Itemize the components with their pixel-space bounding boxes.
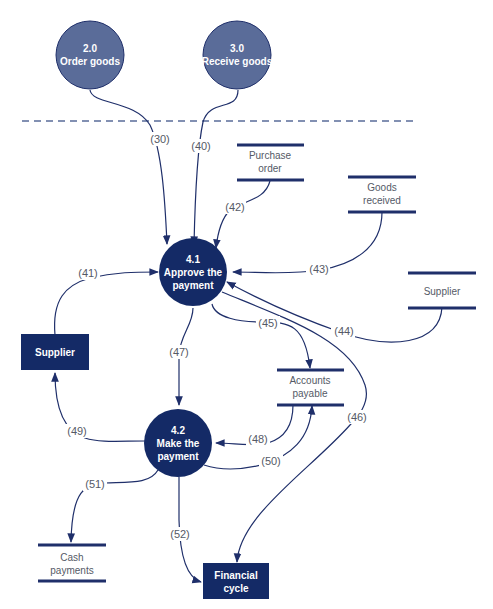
flow-label-44: (44) <box>334 325 354 337</box>
svg-text:Receive goods: Receive goods <box>202 56 273 67</box>
svg-text:payable: payable <box>292 388 327 399</box>
data-flow-diagram: (30) (40) (41) (42) (43) (44) (45) (46) … <box>0 0 493 609</box>
svg-text:Supplier: Supplier <box>424 286 461 297</box>
flow-label-47: (47) <box>169 346 189 358</box>
flow-41 <box>55 272 158 335</box>
flow-label-49: (49) <box>67 425 87 437</box>
svg-text:payment: payment <box>172 280 214 291</box>
flow-label-43: (43) <box>309 263 329 275</box>
svg-text:cycle: cycle <box>223 583 248 594</box>
svg-text:payments: payments <box>50 565 93 576</box>
process-4-1-approve-payment: 4.1 Approve the payment <box>159 238 227 306</box>
svg-text:Financial: Financial <box>214 570 258 581</box>
svg-text:3.0: 3.0 <box>230 43 244 54</box>
svg-text:order: order <box>258 163 282 174</box>
process-3-0-receive-goods: 3.0 Receive goods <box>202 21 273 89</box>
flow-label-45: (45) <box>258 317 278 329</box>
svg-text:received: received <box>363 195 401 206</box>
svg-text:Accounts: Accounts <box>289 375 330 386</box>
svg-text:Order goods: Order goods <box>60 56 120 67</box>
flow-label-50: (50) <box>261 455 281 467</box>
svg-text:4.1: 4.1 <box>186 254 200 265</box>
svg-text:Cash: Cash <box>60 552 83 563</box>
flow-label-42: (42) <box>225 201 245 213</box>
datastore-supplier: Supplier <box>408 273 476 308</box>
flow-label-48: (48) <box>248 433 268 445</box>
flow-45 <box>212 304 310 368</box>
flow-40 <box>194 90 238 245</box>
flow-label-51: (51) <box>85 478 105 490</box>
datastore-accounts-payable: Accounts payable <box>277 370 344 405</box>
entity-financial-cycle: Financial cycle <box>203 563 269 599</box>
svg-text:4.2: 4.2 <box>171 425 185 436</box>
flow-30 <box>90 90 167 244</box>
datastore-purchase-order: Purchase order <box>237 145 304 180</box>
datastore-cash-payments: Cash payments <box>38 545 106 581</box>
svg-text:Purchase: Purchase <box>249 150 292 161</box>
svg-text:Supplier: Supplier <box>35 347 75 358</box>
process-2-0-order-goods: 2.0 Order goods <box>56 21 124 89</box>
process-4-2-make-payment: 4.2 Make the payment <box>144 409 212 477</box>
flow-label-30: (30) <box>150 133 170 145</box>
flow-label-52: (52) <box>170 528 190 540</box>
svg-text:Make the: Make the <box>157 438 200 449</box>
svg-text:2.0: 2.0 <box>83 43 97 54</box>
entity-supplier: Supplier <box>21 334 89 370</box>
svg-text:Approve the: Approve the <box>164 267 223 278</box>
flow-label-41: (41) <box>78 267 98 279</box>
svg-text:payment: payment <box>157 451 199 462</box>
flow-label-40: (40) <box>191 140 211 152</box>
flow-label-46: (46) <box>347 411 367 423</box>
datastore-goods-received: Goods received <box>348 177 416 212</box>
svg-text:Goods: Goods <box>367 182 396 193</box>
flow-42 <box>216 181 270 248</box>
